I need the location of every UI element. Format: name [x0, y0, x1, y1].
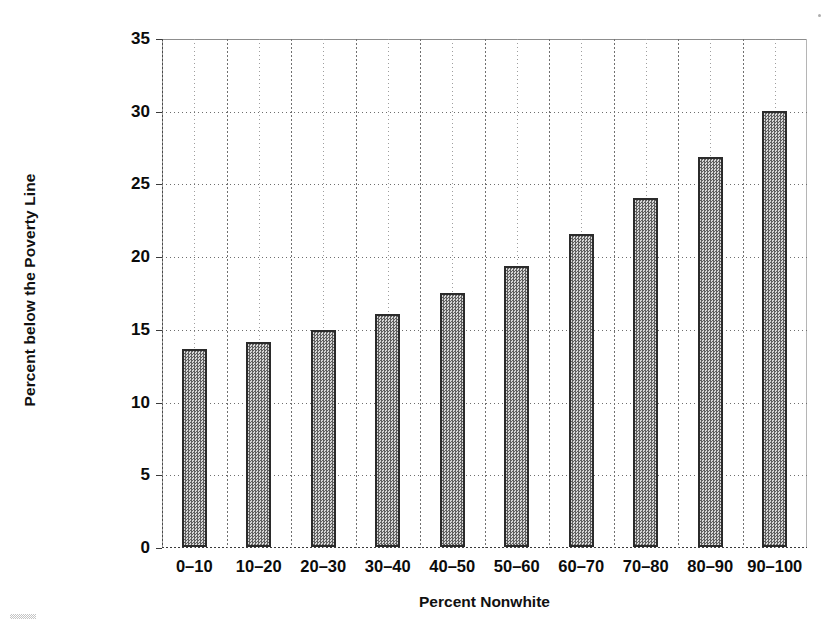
y-tick-mark: [156, 39, 162, 40]
y-tick-mark: [156, 475, 162, 476]
gridline-vertical-boundary: [678, 39, 679, 548]
x-tick-label: 30–40: [365, 557, 411, 576]
y-tick-mark: [156, 330, 162, 331]
scan-speck: [818, 14, 821, 17]
y-tick-label: 0: [141, 538, 150, 558]
y-tick-mark: [156, 548, 162, 549]
gridline-vertical-boundary: [356, 39, 357, 548]
x-tick-label: 0–10: [176, 557, 213, 576]
gridline-vertical-boundary: [614, 39, 615, 548]
x-tick-label: 50–60: [494, 557, 540, 576]
bar: [633, 198, 658, 547]
y-tick-mark: [156, 112, 162, 113]
bar: [311, 330, 336, 547]
gridline-vertical-boundary: [485, 39, 486, 548]
x-tick-label: 10–20: [236, 557, 282, 576]
y-tick-label: 25: [131, 174, 150, 194]
x-axis-title: Percent Nonwhite: [162, 593, 807, 611]
bar-chart-figure: Percent below the Poverty Line 051015202…: [0, 0, 839, 637]
bar: [182, 349, 207, 547]
gridline-vertical-boundary: [420, 39, 421, 548]
gridline-vertical-boundary: [291, 39, 292, 548]
bar: [504, 266, 529, 547]
bar: [698, 157, 723, 547]
bar: [246, 342, 271, 547]
bar: [762, 111, 787, 547]
gridline-vertical-boundary: [227, 39, 228, 548]
y-tick-label: 30: [131, 102, 150, 122]
x-tick-label: 60–70: [558, 557, 604, 576]
gridline-vertical-boundary: [743, 39, 744, 548]
x-tick-label: 80–90: [687, 557, 733, 576]
y-axis-title-label: Percent below the Poverty Line: [21, 174, 39, 407]
gridline-vertical-boundary: [549, 39, 550, 548]
y-tick-label: 10: [131, 393, 150, 413]
y-tick-mark: [156, 184, 162, 185]
y-axis-title: Percent below the Poverty Line: [10, 0, 50, 580]
y-tick-label: 5: [141, 465, 150, 485]
y-tick-mark: [156, 403, 162, 404]
bar: [569, 234, 594, 547]
plot-area: 05101520253035: [162, 39, 807, 548]
y-tick-label: 15: [131, 320, 150, 340]
scan-artifact: [10, 614, 36, 619]
y-axis-line: [162, 39, 163, 548]
x-tick-label: 90–100: [747, 557, 802, 576]
bar: [375, 314, 400, 547]
x-tick-label: 70–80: [623, 557, 669, 576]
y-tick-label: 20: [131, 247, 150, 267]
y-tick-mark: [156, 257, 162, 258]
plot-frame-right: [806, 39, 807, 548]
bar: [440, 293, 465, 548]
x-tick-label: 40–50: [429, 557, 475, 576]
x-tick-label: 20–30: [300, 557, 346, 576]
y-tick-label: 35: [131, 29, 150, 49]
